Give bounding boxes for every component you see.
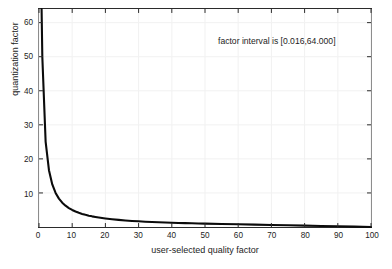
x-axis-title: user-selected quality factor	[38, 245, 372, 255]
x-tick-label: 70	[267, 231, 276, 240]
x-tick-label: 40	[167, 231, 176, 240]
y-tick-label: 30	[24, 120, 33, 129]
x-tick-label: 50	[200, 231, 209, 240]
x-tick-label: 90	[334, 231, 343, 240]
x-tick-label: 100	[365, 231, 379, 240]
x-tick-label: 20	[100, 231, 109, 240]
x-tick-label: 60	[234, 231, 243, 240]
x-tick-label: 80	[301, 231, 310, 240]
x-tick-label: 0	[36, 231, 41, 240]
y-tick-label: 60	[24, 17, 33, 26]
x-tick-label: 10	[67, 231, 76, 240]
y-tick-label: 50	[24, 52, 33, 61]
chart-figure: 0102030405060708090100 102030405060 user…	[0, 0, 392, 269]
y-tick-label: 10	[24, 189, 33, 198]
y-tick-label: 20	[24, 155, 33, 164]
factor-interval-annotation: factor interval is [0.016,64.000]	[218, 36, 336, 46]
y-tick-label: 40	[24, 86, 33, 95]
x-tick-label: 30	[134, 231, 143, 240]
y-axis-title: quantization factor	[10, 0, 20, 123]
